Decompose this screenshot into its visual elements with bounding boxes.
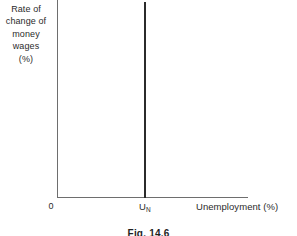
y-axis-label-line-3: money	[0, 28, 52, 40]
y-axis-label: Rate of change of money wages (%)	[0, 3, 52, 65]
y-axis-label-line-5: (%)	[0, 53, 52, 65]
x-axis-label: Unemployment (%)	[196, 201, 278, 212]
x-axis-line	[57, 197, 248, 198]
y-axis-label-line-1: Rate of	[0, 3, 52, 15]
figure-caption: Fig. 14.6	[0, 228, 297, 236]
figure-canvas: Rate of change of money wages (%) 0 UN U…	[0, 0, 297, 236]
origin-label: 0	[45, 201, 57, 211]
natural-rate-subscript: N	[146, 206, 151, 213]
y-axis-label-line-2: change of	[0, 15, 52, 27]
y-axis-label-line-4: wages	[0, 40, 52, 52]
natural-rate-symbol: U	[139, 201, 146, 212]
y-axis-line	[57, 0, 58, 198]
long-run-phillips-curve-line	[144, 2, 146, 198]
natural-rate-label: UN	[131, 201, 159, 212]
